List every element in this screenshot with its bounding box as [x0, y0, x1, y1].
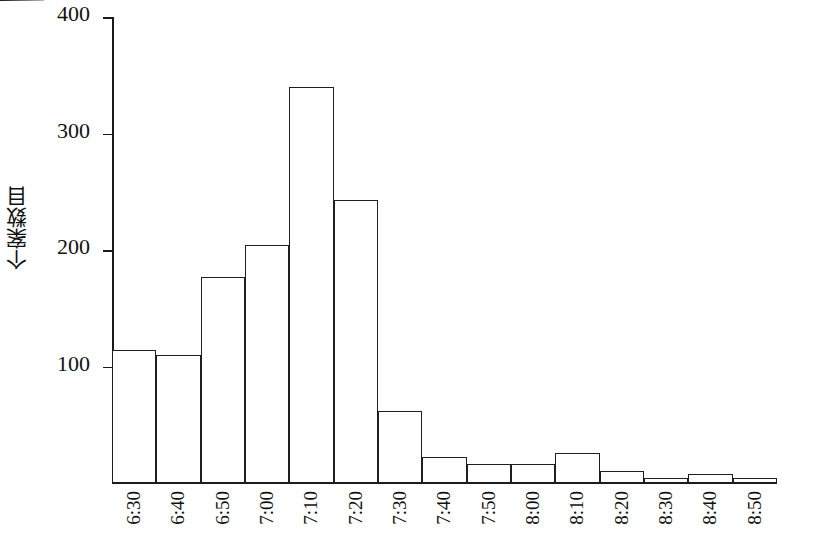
x-tick-label-7-10: 7:10	[289, 487, 333, 551]
x-tick-label-text: 6:40	[167, 491, 189, 525]
x-tick-label-text: 8:30	[655, 491, 677, 525]
x-tick-label-7-30: 7:30	[378, 487, 422, 551]
y-tick-mark-400	[103, 17, 112, 19]
x-tick-label-8-50: 8:50	[733, 487, 777, 551]
x-tick-label-text: 8:40	[699, 491, 721, 525]
bar-7-50	[467, 464, 511, 483]
y-tick-label-100: 100	[32, 351, 90, 377]
x-tick-label-8-20: 8:20	[600, 487, 644, 551]
bar-7-00	[245, 245, 289, 483]
bar-8-30	[644, 478, 688, 483]
bar-series	[112, 17, 777, 483]
x-tick-label-7-00: 7:00	[245, 487, 289, 551]
bar-6-50	[201, 277, 245, 483]
x-tick-label-text: 8:50	[744, 491, 766, 525]
x-tick-label-text: 8:10	[566, 491, 588, 525]
x-tick-label-8-10: 8:10	[555, 487, 599, 551]
x-tick-label-text: 7:20	[345, 491, 367, 525]
x-tick-label-text: 7:10	[300, 491, 322, 525]
bar-8-40	[688, 474, 732, 483]
x-tick-label-8-30: 8:30	[644, 487, 688, 551]
y-tick-label-400: 400	[32, 1, 90, 27]
x-tick-label-6-40: 6:40	[156, 487, 200, 551]
x-tick-label-8-00: 8:00	[511, 487, 555, 551]
bar-8-20	[600, 471, 644, 483]
x-tick-label-7-20: 7:20	[334, 487, 378, 551]
y-tick-label-200: 200	[32, 234, 90, 260]
x-tick-label-6-30: 6:30	[112, 487, 156, 551]
bar-6-40	[156, 355, 200, 483]
bar-7-20	[334, 200, 378, 483]
x-tick-label-text: 7:50	[478, 491, 500, 525]
x-axis-tick-labels: 6:306:406:507:007:107:207:307:407:508:00…	[112, 487, 777, 553]
x-tick-label-7-40: 7:40	[422, 487, 466, 551]
x-tick-label-8-40: 8:40	[688, 487, 732, 551]
x-tick-label-7-50: 7:50	[467, 487, 511, 551]
bar-8-10	[555, 453, 599, 483]
bar-6-30	[112, 350, 156, 483]
bar-8-50	[733, 478, 777, 483]
x-tick-label-text: 7:30	[389, 491, 411, 525]
y-tick-label-300: 300	[32, 118, 90, 144]
bar-7-30	[378, 411, 422, 483]
x-tick-label-text: 6:50	[212, 491, 234, 525]
bar-7-10	[289, 87, 333, 483]
x-tick-label-text: 7:40	[433, 491, 455, 525]
y-tick-mark-100	[103, 367, 112, 369]
x-tick-label-text: 7:00	[256, 491, 278, 525]
y-tick-mark-300	[103, 134, 112, 136]
x-tick-label-6-50: 6:50	[201, 487, 245, 551]
x-tick-label-text: 8:20	[611, 491, 633, 525]
x-tick-label-text: 6:30	[123, 491, 145, 525]
histogram-chart: 个案数目 400300200100 6:306:406:507:007:107:…	[0, 0, 823, 553]
bar-8-00	[511, 464, 555, 483]
y-tick-mark-200	[103, 250, 112, 252]
bar-7-40	[422, 457, 466, 483]
x-tick-label-text: 8:00	[522, 491, 544, 525]
